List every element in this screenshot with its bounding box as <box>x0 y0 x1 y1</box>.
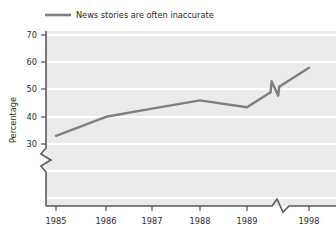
x-tick-label-1998: 1998 <box>299 216 320 226</box>
y-tick-label-60: 60 <box>27 57 37 67</box>
y-tick-label-50: 50 <box>27 84 37 94</box>
x-tick-label-1988: 1988 <box>190 216 211 226</box>
x-axis-tick-labels: 1985 1986 1987 1988 1989 1998 <box>46 216 320 226</box>
line-chart: News stories are often inaccurate 70 60 … <box>0 0 336 245</box>
legend: News stories are often inaccurate <box>45 10 214 20</box>
x-tick-label-1989: 1989 <box>237 216 258 226</box>
y-tick-label-70: 70 <box>27 30 37 40</box>
x-tick-label-1987: 1987 <box>142 216 163 226</box>
y-axis-title: Percentage <box>8 97 18 143</box>
x-tick-label-1986: 1986 <box>96 216 117 226</box>
y-tick-label-40: 40 <box>27 112 37 122</box>
y-tick-label-30: 30 <box>27 139 37 149</box>
legend-label: News stories are often inaccurate <box>76 10 214 20</box>
chart-container: News stories are often inaccurate 70 60 … <box>0 0 336 245</box>
x-tick-label-1985: 1985 <box>46 216 67 226</box>
plot-area-background <box>46 31 336 206</box>
y-axis-tick-labels: 70 60 50 40 30 <box>27 30 37 149</box>
